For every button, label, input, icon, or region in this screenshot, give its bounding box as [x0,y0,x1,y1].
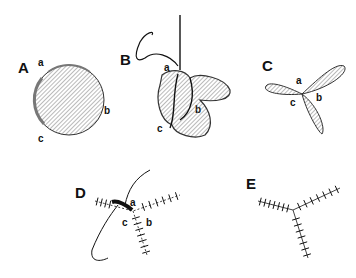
panel-label-b: B [120,51,131,68]
point-label-b: b [104,105,110,116]
lobe-right [302,65,345,94]
panel-label-e: E [246,175,256,192]
point-label-a: a [296,75,302,86]
figure-canvas: A a b c B a b c C a b c D a b c [0,0,356,278]
suture-thread-loop [136,32,178,66]
point-label-b: b [146,217,152,228]
panel-e: E [246,175,340,258]
panel-label-c: C [262,57,273,74]
point-label-c: c [122,217,128,228]
stitch [109,201,111,209]
point-label-b: b [316,92,322,103]
folded-flap [158,71,230,137]
stitch [149,201,151,209]
stitch [142,251,150,253]
stitch [142,203,144,211]
panel-label-a: A [18,59,29,76]
panel-a: A a b c [18,57,110,144]
suture-thread [125,170,150,205]
incision-line [95,195,180,211]
circular-flap [34,65,104,135]
suture-thread [92,205,118,260]
point-label-a: a [38,57,44,68]
stitch [105,200,107,208]
panel-d: D a b c [75,170,180,260]
point-label-c: c [290,97,296,108]
stitch [134,222,142,224]
point-label-c: c [38,133,44,144]
stitch [137,234,145,236]
panel-c: C a b c [262,57,345,134]
point-label-c: c [157,123,163,134]
panel-b: B a b c [120,15,230,137]
sutured-incision [293,210,308,258]
panel-label-d: D [75,184,86,201]
point-label-a: a [130,197,136,208]
